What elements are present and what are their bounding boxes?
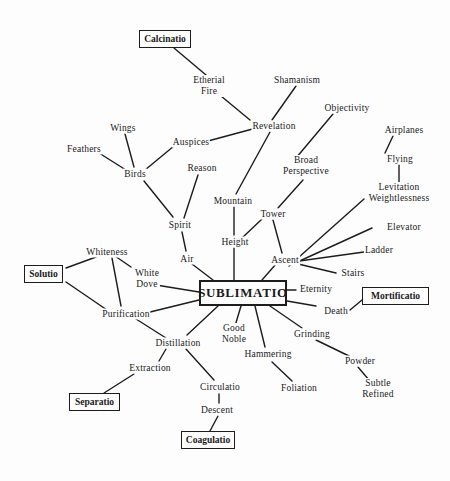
node-feathers: Feathers: [66, 144, 102, 155]
node-wings: Wings: [109, 123, 136, 134]
edge-connector: [262, 264, 276, 280]
edge-connector: [221, 96, 250, 120]
box-separatio: Separatio: [69, 393, 120, 411]
concept-map-canvas: Etherial FireShamanismRevelationObjectiv…: [0, 0, 450, 481]
node-whiteness: Whiteness: [85, 247, 128, 258]
node-reason: Reason: [186, 163, 217, 174]
edge-connector: [350, 300, 362, 310]
box-coagulatio: Coagulatio: [181, 431, 235, 449]
edge-connector: [186, 349, 214, 380]
edge-connector: [174, 48, 206, 75]
node-etherial-fire: Etherial Fire: [192, 75, 226, 97]
edge-connector: [242, 219, 262, 238]
node-airplanes: Airplanes: [384, 125, 425, 136]
box-calcinatio: Calcinatio: [139, 30, 191, 48]
edge-connector: [146, 300, 199, 313]
node-tower: Tower: [259, 209, 286, 220]
box-sublimatio: SUBLIMATIO: [199, 280, 287, 306]
edge-connector: [192, 264, 213, 280]
node-stairs: Stairs: [341, 268, 366, 279]
node-extraction: Extraction: [128, 363, 172, 374]
edge-connector: [184, 175, 198, 218]
edge-connector: [99, 153, 126, 170]
node-powder: Powder: [344, 356, 376, 367]
node-ascent: Ascent: [270, 255, 300, 266]
edge-connector: [156, 285, 199, 292]
edge-connector: [66, 282, 107, 310]
edge-connector: [159, 349, 166, 361]
node-hammering: Hammering: [243, 349, 292, 360]
node-flying: Flying: [386, 154, 414, 165]
node-subtle-refined: Subtle Refined: [361, 378, 394, 400]
edge-connector: [296, 114, 333, 158]
box-mortificatio: Mortificatio: [362, 287, 429, 305]
node-levitation: Levitation Weightlessness: [368, 182, 431, 204]
edge-connector: [385, 136, 393, 153]
node-spirit: Spirit: [168, 220, 192, 231]
node-white-dove: White Dove: [134, 268, 160, 290]
node-shamanism: Shamanism: [273, 75, 321, 86]
edge-connector: [182, 232, 186, 251]
edge-connector: [104, 374, 134, 393]
edge-connector: [272, 86, 296, 120]
node-good-noble: Good Noble: [221, 323, 247, 345]
node-revelation: Revelation: [251, 121, 296, 132]
edge-connector: [145, 146, 174, 170]
edge-connector: [255, 306, 265, 347]
node-circulatio: Circulatio: [199, 382, 241, 393]
node-birds: Birds: [123, 169, 147, 180]
node-distillation: Distillation: [154, 338, 201, 349]
edge-connector: [136, 319, 166, 338]
node-purification: Purification: [101, 309, 150, 320]
edge-connector: [210, 416, 218, 431]
edge-connector: [294, 263, 336, 273]
node-broad-perspective: Broad Perspective: [282, 155, 330, 177]
node-elevator: Elevator: [386, 222, 422, 233]
node-death: Death: [323, 306, 349, 317]
node-mountain: Mountain: [213, 196, 254, 207]
edge-connector: [278, 180, 303, 208]
edge-connector: [112, 258, 121, 306]
node-eternity: Eternity: [299, 284, 333, 295]
edge-connector: [66, 257, 96, 268]
edge-connector: [144, 181, 173, 217]
edge-connector: [289, 199, 364, 266]
box-solutio: Solutio: [24, 265, 63, 283]
edge-connector: [236, 132, 270, 194]
edge-connector: [316, 340, 349, 356]
node-descent: Descent: [200, 405, 234, 416]
edge-connector: [272, 362, 292, 381]
node-ladder: Ladder: [364, 245, 394, 256]
node-objectivity: Objectivity: [324, 103, 371, 114]
node-height: Height: [220, 237, 249, 248]
edge-connector: [273, 220, 282, 253]
edge-connector: [187, 306, 218, 335]
node-auspices: Auspices: [172, 137, 210, 148]
node-grinding: Grinding: [293, 329, 331, 340]
edge-connector: [293, 228, 372, 264]
node-air: Air: [179, 254, 194, 265]
edge-connector: [115, 256, 131, 267]
edge-connector: [270, 306, 302, 328]
edge-connector: [287, 301, 316, 306]
node-foliation: Foliation: [280, 383, 318, 394]
edge-connector: [125, 134, 134, 167]
